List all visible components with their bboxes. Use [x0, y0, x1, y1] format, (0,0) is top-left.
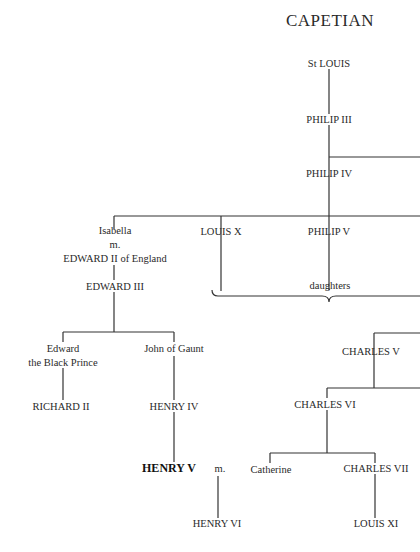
node-philip-iii: PHILIP III: [306, 113, 351, 126]
node-daughters: daughters: [310, 279, 351, 292]
node-st-louis: St LOUIS: [308, 57, 350, 70]
node-edward-iii: EDWARD III: [86, 280, 144, 293]
node-henry-v: HENRY V: [142, 462, 196, 475]
node-charles-vii: CHARLES VII: [344, 462, 409, 475]
node-catherine: Catherine: [251, 463, 292, 476]
node-edward-ii: EDWARD II of England: [63, 252, 167, 265]
node-black-prince-line1: Edward: [47, 342, 80, 355]
dynasty-title: CAPETIAN: [286, 14, 374, 27]
node-louis-xi: LOUIS XI: [354, 517, 399, 530]
node-john-of-gaunt: John of Gaunt: [144, 342, 204, 355]
node-black-prince-line2: the Black Prince: [28, 356, 97, 369]
node-philip-iv: PHILIP IV: [306, 167, 352, 180]
marriage-label-isabella: m.: [110, 238, 121, 251]
node-henry-vi: HENRY VI: [193, 517, 242, 530]
node-charles-vi: CHARLES VI: [294, 398, 355, 411]
node-richard-ii: RICHARD II: [33, 400, 90, 413]
node-louis-x: LOUIS X: [200, 225, 241, 238]
node-isabella: Isabella: [99, 224, 132, 237]
node-philip-v: PHILIP V: [308, 225, 350, 238]
node-charles-v: CHARLES V: [342, 345, 400, 358]
marriage-label-henry-v: m.: [215, 462, 226, 475]
node-henry-iv: HENRY IV: [150, 400, 199, 413]
